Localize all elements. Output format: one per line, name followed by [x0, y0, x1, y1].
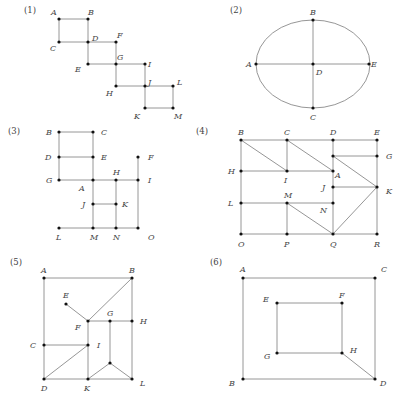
vertex-label-K: K	[121, 200, 129, 209]
vertex-E	[64, 302, 67, 305]
vertex-L	[239, 201, 242, 204]
vertex-B	[239, 138, 242, 141]
vertex-G	[275, 351, 278, 354]
vertex-label-I: I	[147, 176, 152, 185]
vertex-label-P: P	[283, 240, 290, 249]
edge-P-K	[88, 363, 110, 379]
vertex-G	[375, 154, 378, 157]
figure-number-3: (3)	[8, 126, 20, 136]
vertex-B	[311, 18, 314, 21]
vertex-H	[239, 169, 242, 172]
vertex-Q	[331, 232, 334, 235]
vertex-label-L: L	[55, 233, 61, 242]
vertex-A	[57, 17, 60, 20]
vertex-C	[311, 106, 314, 109]
vertex-label-J: J	[320, 183, 326, 192]
vertex-label-B: B	[237, 128, 244, 137]
vertex-C	[373, 276, 376, 279]
vertex-label-N: N	[319, 206, 328, 215]
figure-4	[241, 140, 377, 234]
vertex-label-G: G	[107, 309, 114, 318]
vertex-label-I: I	[283, 176, 288, 185]
vertex-I	[285, 169, 288, 172]
vertex-L	[57, 226, 60, 229]
vertex-D	[373, 377, 376, 380]
vertex-C	[285, 138, 288, 141]
vertex-B	[86, 17, 89, 20]
vertex-label-C: C	[284, 128, 290, 137]
vertex-label-H: H	[139, 317, 148, 326]
vertex-E	[375, 138, 378, 141]
vertex-G	[114, 62, 117, 65]
vertex-G	[108, 319, 111, 322]
vertex-I	[143, 62, 146, 65]
vertex-F	[136, 155, 139, 158]
vertex-label-L: L	[176, 78, 182, 87]
vertex-label-D: D	[44, 153, 52, 162]
vertex-label-A: A	[78, 184, 85, 193]
vertex-label-D: D	[315, 68, 323, 77]
vertex-label-C: C	[50, 44, 56, 53]
vertex-label-O: O	[238, 240, 245, 249]
vertex-label-B: B	[228, 379, 235, 388]
vertex-D	[331, 138, 334, 141]
vertex-label-E: E	[74, 65, 81, 74]
vertex-A	[91, 178, 94, 181]
vertex-K	[375, 185, 378, 188]
vertex-label-N: N	[112, 233, 121, 242]
vertex-label-O: O	[148, 233, 155, 242]
vertex-label-E: E	[62, 291, 69, 300]
vertex-G	[57, 178, 60, 181]
vertex-label-F: F	[116, 31, 123, 40]
vertex-H	[114, 178, 117, 181]
vertex-label-F: F	[338, 291, 345, 300]
vertex-N	[331, 201, 334, 204]
edge-E-F	[66, 304, 88, 321]
figure-number-5: (5)	[10, 257, 22, 267]
vertex-label-B: B	[87, 8, 94, 17]
vertex-label-J: J	[80, 200, 86, 209]
vertex-label-D: D	[91, 34, 99, 43]
vertex-O	[239, 232, 242, 235]
figure-number-4: (4)	[196, 126, 208, 136]
figure-number-1: (1)	[24, 5, 36, 15]
vertex-label-H: H	[227, 167, 236, 176]
vertex-R	[375, 232, 378, 235]
vertex-B	[57, 130, 60, 133]
vertex-label-I: I	[96, 341, 101, 350]
vertex-label-A: A	[334, 171, 341, 180]
vertex-label-R: R	[373, 240, 380, 249]
vertex-label-I: I	[147, 60, 152, 69]
vertex-I	[86, 343, 89, 346]
edge-D-I	[44, 345, 88, 379]
vertex-label-G: G	[264, 352, 271, 361]
vertex-E	[275, 301, 278, 304]
edge-B-I	[241, 140, 287, 171]
vertex-label-C: C	[381, 265, 387, 274]
vertex-label-C: C	[310, 113, 316, 122]
labels-layer: ABCDFEGIHJLKM(1)BADEC(2)BCDEFGAHIJKLMNO(…	[8, 5, 393, 393]
vertex-label-M: M	[89, 233, 99, 242]
graph-diagrams-canvas: ABCDFEGIHJLKM(1)BADEC(2)BCDEFGAHIJKLMNO(…	[0, 0, 399, 397]
vertex-label-G: G	[386, 152, 393, 161]
vertex-F	[86, 319, 89, 322]
vertex-A	[254, 62, 257, 65]
vertex-C	[57, 40, 60, 43]
vertex-label-F: F	[74, 323, 81, 332]
vertex-D	[311, 62, 314, 65]
vertex-label-D: D	[40, 384, 48, 393]
vertex-label-H: H	[112, 168, 121, 177]
edge-C-A	[287, 140, 333, 171]
vertex-C	[91, 130, 94, 133]
vertex-H	[130, 319, 133, 322]
vertex-M	[171, 106, 174, 109]
vertex-label-G: G	[117, 53, 124, 62]
vertex-label-E: E	[100, 153, 107, 162]
vertex-D	[86, 40, 89, 43]
vertex-label-E: E	[373, 128, 380, 137]
vertex-K	[143, 106, 146, 109]
vertex-label-H: H	[349, 346, 358, 355]
vertex-label-G: G	[46, 176, 53, 185]
vertex-label-K: K	[385, 187, 393, 196]
vertex-label-B: B	[309, 8, 316, 17]
